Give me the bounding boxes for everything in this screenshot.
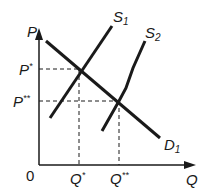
x-axis-label: Q	[186, 171, 198, 188]
x-axis-arrow-icon	[184, 161, 196, 169]
supply-curve-s1	[50, 26, 112, 118]
s2-label: S2	[145, 24, 161, 43]
supply-curve-s2	[102, 41, 145, 131]
supply-demand-diagram: P Q 0 S1 S2 D1 P* P** Q* Q**	[0, 0, 204, 196]
origin-label: 0	[26, 167, 34, 184]
demand-curve-d1	[46, 41, 160, 138]
d1-label: D1	[164, 136, 180, 155]
p-double-star-label: P**	[13, 93, 31, 110]
q-star-label: Q*	[70, 170, 86, 187]
p-star-label: P*	[19, 61, 33, 78]
s1-label: S1	[113, 8, 129, 27]
q-double-star-label: Q**	[110, 170, 129, 187]
y-axis-label: P	[27, 23, 37, 40]
